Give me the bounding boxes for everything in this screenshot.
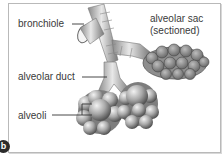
- alveolar-sac-sectioned: [143, 44, 209, 80]
- label-alveoli: alveoli: [18, 110, 46, 121]
- label-alveolar-sac: alveolar sac: [150, 13, 203, 24]
- alveoli-cluster-left: [76, 90, 123, 135]
- label-alveolar-duct: alveolar duct: [18, 71, 75, 82]
- label-alveolar-sac-sectioned: (sectioned): [150, 25, 199, 36]
- label-bronchiole: bronchiole: [18, 18, 64, 29]
